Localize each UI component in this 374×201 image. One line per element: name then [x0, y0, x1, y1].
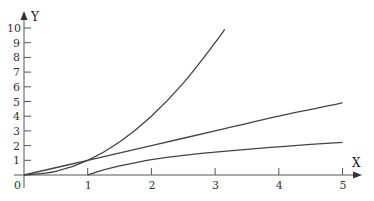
y-tick-label: 4 — [13, 110, 20, 123]
chart: 12345 12345678910 X Y 0 — [0, 0, 374, 201]
x-tick-label: 1 — [85, 179, 92, 192]
y-tick-label: 10 — [7, 22, 21, 35]
x-axis-label: X — [352, 156, 361, 170]
y-axis — [21, 11, 28, 188]
y-tick-label: 6 — [13, 81, 20, 94]
y-axis-label: Y — [30, 10, 40, 24]
y-tick-label: 5 — [13, 96, 20, 109]
series-line-0 — [24, 29, 225, 175]
series-group — [24, 29, 343, 175]
x-axis — [14, 172, 362, 179]
x-tick-label: 3 — [212, 179, 219, 192]
x-tick-label: 5 — [340, 179, 347, 192]
x-tick-label: 2 — [148, 179, 155, 192]
y-tick-label: 8 — [13, 51, 20, 64]
y-ticks: 12345678910 — [7, 22, 31, 167]
x-tick-label: 4 — [276, 179, 283, 192]
y-tick-label: 3 — [13, 125, 20, 138]
x-axis-arrow-icon — [353, 172, 362, 179]
y-tick-label: 1 — [13, 154, 20, 167]
x-ticks: 12345 — [85, 168, 347, 192]
y-axis-arrow-icon — [21, 11, 28, 20]
series-line-1 — [24, 103, 343, 175]
y-tick-label: 2 — [13, 140, 20, 153]
y-tick-label: 9 — [13, 37, 20, 50]
y-tick-label: 7 — [13, 66, 20, 79]
origin-label: 0 — [14, 179, 21, 192]
